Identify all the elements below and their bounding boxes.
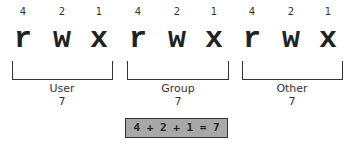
bit-weight: 2 bbox=[281, 6, 301, 17]
bit-weight: 1 bbox=[89, 6, 109, 17]
group-bracket bbox=[127, 61, 229, 80]
group-value: 7 bbox=[128, 95, 228, 108]
bit-weight: 1 bbox=[204, 6, 224, 17]
group-name: Other bbox=[242, 82, 342, 95]
permission-letter: w bbox=[47, 24, 77, 54]
permission-letter: w bbox=[276, 24, 306, 54]
group-name: Group bbox=[128, 82, 228, 95]
permission-letter: r bbox=[123, 24, 153, 54]
permission-letter: x bbox=[84, 24, 114, 54]
permission-letter: r bbox=[237, 24, 267, 54]
group-value: 7 bbox=[242, 95, 342, 108]
permission-letter: r bbox=[8, 24, 38, 54]
group-value: 7 bbox=[12, 95, 112, 108]
bit-weight: 4 bbox=[13, 6, 33, 17]
permission-letter: x bbox=[199, 24, 229, 54]
bit-weight: 4 bbox=[128, 6, 148, 17]
group-name: User bbox=[12, 82, 112, 95]
equation-box: 4 + 2 + 1 = 7 bbox=[125, 118, 228, 138]
group-label: Other 7 bbox=[242, 82, 342, 108]
bit-weight: 2 bbox=[52, 6, 72, 17]
group-bracket bbox=[242, 61, 343, 80]
permission-letter: x bbox=[313, 24, 343, 54]
bit-weight: 4 bbox=[242, 6, 262, 17]
group-bracket bbox=[12, 61, 113, 80]
bit-weight: 1 bbox=[318, 6, 338, 17]
group-label: User 7 bbox=[12, 82, 112, 108]
bit-weight: 2 bbox=[167, 6, 187, 17]
group-label: Group 7 bbox=[128, 82, 228, 108]
permission-letter: w bbox=[162, 24, 192, 54]
